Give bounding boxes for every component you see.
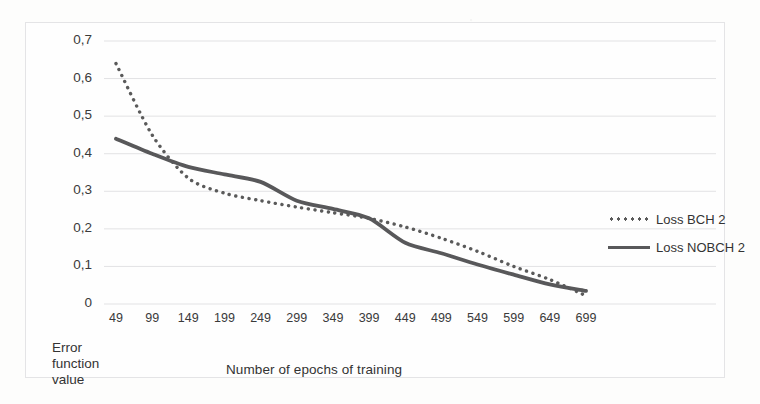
x-axis-tick-label: 399 bbox=[349, 311, 389, 325]
x-axis-tick-label: 649 bbox=[530, 311, 570, 325]
y-axis-title-line-1: Error bbox=[52, 340, 124, 356]
y-axis-tick-label: 0,4 bbox=[46, 145, 92, 160]
dotted-line-swatch-icon bbox=[608, 214, 650, 224]
legend-item-loss-nobch-2: Loss NOBCH 2 bbox=[608, 233, 748, 261]
y-axis-tick-label: 0,7 bbox=[46, 32, 92, 47]
solid-line-swatch-icon bbox=[608, 246, 650, 249]
series-line-loss-bch-2 bbox=[116, 64, 586, 296]
y-axis-title-line-2: function bbox=[52, 356, 124, 372]
x-axis-tick-label: 149 bbox=[168, 311, 208, 325]
y-axis-tick-label: 0,2 bbox=[46, 220, 92, 235]
x-axis-tick-label: 699 bbox=[566, 311, 606, 325]
chart-frame: 0,70,60,50,40,30,20,10 49991491992492993… bbox=[25, 22, 725, 378]
series-group bbox=[116, 64, 586, 296]
y-axis-tick-label: 0,3 bbox=[46, 182, 92, 197]
series-line-loss-nobch-2 bbox=[116, 139, 586, 291]
x-axis-tick-label: 349 bbox=[313, 311, 353, 325]
y-axis-tick-label: 0,6 bbox=[46, 70, 92, 85]
x-axis-tick-label: 499 bbox=[421, 311, 461, 325]
x-axis-tick-label: 299 bbox=[277, 311, 317, 325]
legend-label-loss-bch-2: Loss BCH 2 bbox=[656, 212, 725, 227]
x-axis-tick-label: 199 bbox=[204, 311, 244, 325]
gridlines-group bbox=[104, 41, 716, 304]
legend-label-loss-nobch-2: Loss NOBCH 2 bbox=[656, 240, 745, 255]
x-axis-tick-label: 549 bbox=[458, 311, 498, 325]
legend-item-loss-bch-2: Loss BCH 2 bbox=[608, 205, 748, 233]
y-axis-title-line-3: value bbox=[52, 372, 124, 388]
x-axis-tick-label: 449 bbox=[385, 311, 425, 325]
x-axis-tick-label: 249 bbox=[241, 311, 281, 325]
y-axis-tick-label: 0,1 bbox=[46, 257, 92, 272]
x-axis-tick-label: 599 bbox=[494, 311, 534, 325]
x-axis-tick-label: 49 bbox=[96, 311, 136, 325]
y-axis-tick-label: 0 bbox=[46, 295, 92, 310]
y-axis-title: Error function value bbox=[52, 340, 124, 388]
chart-plot-area bbox=[26, 23, 726, 379]
chart-legend: Loss BCH 2 Loss NOBCH 2 bbox=[608, 205, 748, 261]
x-axis-tick-label: 99 bbox=[132, 311, 172, 325]
x-axis-title: Number of epochs of training bbox=[226, 362, 402, 377]
y-axis-tick-label: 0,5 bbox=[46, 107, 92, 122]
